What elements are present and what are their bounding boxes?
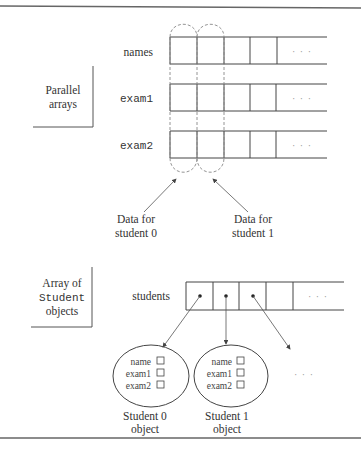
callout-1-line2: student 1 xyxy=(232,227,274,239)
exam1-array: exam1 · · · xyxy=(120,84,327,111)
student-0-callout-arrow xyxy=(144,179,176,212)
parallel-label-2: arrays xyxy=(49,98,78,111)
s0-field-exam1: exam1 xyxy=(126,369,152,379)
top-border xyxy=(0,6,361,8)
student-1-caption-2: object xyxy=(213,423,242,436)
objects-label-2: Student xyxy=(39,292,85,304)
s1-field-exam2: exam2 xyxy=(207,381,233,391)
student-1-object: name exam1 exam2 xyxy=(194,345,268,407)
student-objects-label-box: Array of Student objects xyxy=(31,267,92,327)
student-0-object: name exam1 exam2 xyxy=(113,345,189,407)
diagram-canvas: Parallel arrays names · · · exam1 · · · … xyxy=(0,0,361,451)
exam2-ellipsis: · · · xyxy=(292,140,312,151)
names-ellipsis: · · · xyxy=(292,46,312,57)
parallel-arrays-label-box: Parallel arrays xyxy=(33,66,93,127)
more-objects-ellipsis: · · · xyxy=(294,369,314,380)
callout-1-line1: Data for xyxy=(234,213,272,225)
objects-label-3: objects xyxy=(46,305,79,318)
student-1-column-highlight xyxy=(197,24,224,172)
student-1-caption-1: Student 1 xyxy=(205,410,249,422)
parallel-label-1: Parallel xyxy=(45,84,80,96)
exam1-label: exam1 xyxy=(120,93,153,105)
s0-field-exam2: exam2 xyxy=(126,381,152,391)
callout-0-line1: Data for xyxy=(117,213,155,225)
objects-label-1: Array of xyxy=(42,277,81,290)
students-array: students · · · xyxy=(132,282,344,310)
callout-0-line2: student 0 xyxy=(115,227,157,239)
exam1-ellipsis: · · · xyxy=(292,93,312,104)
reference-arrow-0 xyxy=(163,296,200,347)
names-array: names · · · xyxy=(124,37,327,64)
student-0-caption-1: Student 0 xyxy=(123,410,167,422)
s1-field-name: name xyxy=(211,357,232,367)
students-label: students xyxy=(132,290,170,302)
student-0-column-highlight xyxy=(170,24,197,172)
exam2-label: exam2 xyxy=(120,140,153,152)
student-1-callout-arrow xyxy=(213,179,248,212)
reference-arrow-2 xyxy=(253,296,290,349)
students-ellipsis: · · · xyxy=(308,291,328,302)
exam2-array: exam2 · · · xyxy=(120,131,327,158)
student-0-caption-2: object xyxy=(131,423,160,436)
names-label: names xyxy=(124,46,154,58)
s0-field-name: name xyxy=(130,357,151,367)
s1-field-exam1: exam1 xyxy=(207,369,233,379)
